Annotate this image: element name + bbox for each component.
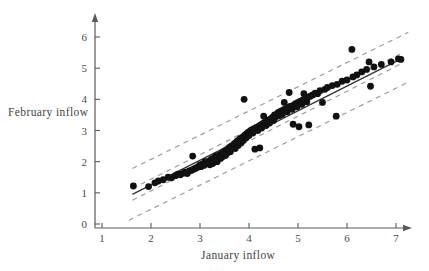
scatter-point <box>388 59 395 66</box>
y-tick-label: 6 <box>82 31 88 43</box>
y-tick-label: 1 <box>82 187 88 199</box>
band-line <box>129 82 408 220</box>
scatter-point <box>189 153 196 160</box>
scatter-point <box>145 183 152 190</box>
y-tick-label: 3 <box>82 125 88 137</box>
scatter-point <box>286 89 293 96</box>
scatter-point <box>296 123 303 130</box>
scatter-point <box>319 99 326 106</box>
y-tick-label: 5 <box>82 62 88 74</box>
band-line <box>132 32 408 168</box>
scatter-point <box>130 183 137 190</box>
x-tick-label: 5 <box>295 232 301 244</box>
scatter-point <box>398 56 405 63</box>
y-axis-arrow <box>92 13 98 22</box>
scatter-point <box>290 121 297 128</box>
y-tick-label: 0 <box>82 218 88 230</box>
scatter-point <box>344 77 351 84</box>
scatter-point <box>363 66 370 73</box>
x-tick-label: 3 <box>197 232 203 244</box>
x-tick-label: 2 <box>148 232 154 244</box>
y-axis-title: February inflow <box>8 106 88 118</box>
x-axis-arrow <box>403 225 412 231</box>
x-tick-label: 6 <box>344 232 350 244</box>
x-axis-title: January inflow <box>201 249 275 261</box>
axes-group <box>92 13 412 231</box>
scatter-point <box>256 145 263 152</box>
points-group <box>130 46 404 190</box>
x-tick-label: 7 <box>393 232 399 244</box>
plot-canvas: 01234561234567 <box>0 0 429 271</box>
x-tick-label: 4 <box>246 232 252 244</box>
x-tick-label: 1 <box>99 232 105 244</box>
scatter-point <box>366 59 373 66</box>
scatter-point <box>305 121 312 128</box>
scatter-point <box>333 113 340 120</box>
scatter-point <box>378 61 385 68</box>
scatter-plot-figure: 01234561234567 February inflow January i… <box>0 0 429 271</box>
scatter-point <box>241 96 248 103</box>
scatter-point <box>349 46 356 53</box>
y-tick-label: 4 <box>82 93 88 105</box>
y-tick-label: 2 <box>82 156 88 168</box>
scatter-point <box>367 83 374 90</box>
scatter-point <box>371 64 378 71</box>
